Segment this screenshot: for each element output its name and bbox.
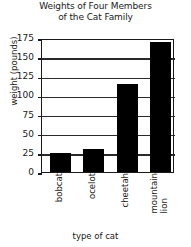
y-axis-tick-label: 125 — [0, 72, 34, 81]
bar — [83, 149, 104, 172]
chart-title: Weights of Four Members of the Cat Famil… — [0, 1, 191, 23]
x-axis-category-label: mountainlion — [132, 173, 186, 227]
x-axis-category-text: bobcat — [55, 173, 65, 202]
bars-group — [42, 38, 175, 172]
bar — [117, 84, 138, 172]
chart-title-line-2: of the Cat Family — [0, 12, 191, 23]
y-axis-tick-label: 50 — [0, 130, 34, 139]
y-axis-tick-label: 150 — [0, 53, 34, 62]
y-axis-tick-label: 25 — [0, 149, 34, 158]
x-axis-category-text: cheetah — [121, 173, 131, 207]
y-axis-tick-label: 0 — [0, 168, 34, 177]
bar — [50, 153, 71, 172]
bar-chart: Weights of Four Members of the Cat Famil… — [0, 0, 191, 247]
y-axis-tick-label: 175 — [0, 34, 34, 43]
x-axis-category-labels: bobcatocelotcheetahmountainlion — [41, 173, 174, 227]
y-axis-tick-label: 75 — [0, 111, 34, 120]
y-axis-tick-label: 100 — [0, 91, 34, 100]
x-axis-title: type of cat — [0, 231, 191, 241]
chart-title-line-1: Weights of Four Members — [0, 1, 191, 12]
x-axis-category-text: ocelot — [88, 173, 98, 199]
bar — [150, 42, 171, 172]
plot-area — [41, 39, 174, 173]
x-axis-category-text: lion — [159, 173, 169, 214]
